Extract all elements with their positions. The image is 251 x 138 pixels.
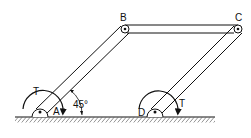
pin-b (121, 25, 129, 33)
link-bc (125, 25, 238, 33)
angle-label: 45° (73, 99, 88, 110)
pin-d (147, 109, 163, 117)
label-a: A (53, 106, 60, 117)
ground (15, 117, 215, 123)
label-c: C (235, 12, 242, 23)
label-b: B (120, 12, 127, 23)
torque-label-right: T (179, 98, 185, 109)
torque-label-left: T (33, 86, 39, 97)
linkage-diagram: B C A D T T 45° (0, 0, 251, 138)
pin-a (32, 109, 48, 117)
pin-c (234, 25, 242, 33)
link-cd (151, 26, 242, 116)
label-d: D (138, 107, 145, 118)
